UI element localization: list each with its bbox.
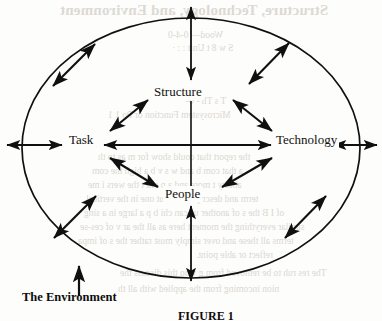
- node-label-structure: Structure: [152, 84, 204, 100]
- node-label-technology: Technology: [274, 132, 339, 148]
- environment-label: The Environment: [22, 290, 117, 305]
- node-label-people: People: [163, 186, 202, 202]
- arrow-boundary-upper-right: [249, 43, 289, 84]
- figure-caption: FIGURE 1: [178, 309, 234, 321]
- diagram-line-art: [0, 0, 382, 321]
- arrow-boundary-upper-left: [53, 44, 95, 86]
- arrow-boundary-lower-left: [54, 196, 96, 238]
- arrow-task-structure: [110, 100, 148, 131]
- arrow-task-people: [110, 158, 158, 187]
- arrow-people-technology: [222, 158, 272, 187]
- figure-socio-technical-systems: Structure, Technology, and Environment W…: [0, 0, 382, 321]
- node-label-task: Task: [67, 132, 95, 148]
- arrow-structure-technology: [233, 100, 272, 131]
